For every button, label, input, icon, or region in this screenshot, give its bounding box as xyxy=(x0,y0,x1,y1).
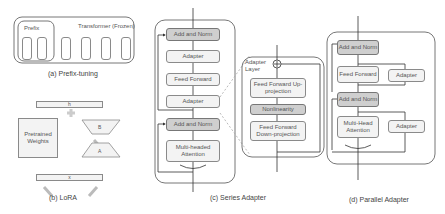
parallel-feed-forward: Feed Forward xyxy=(337,66,379,83)
lora-b-label: B xyxy=(98,124,101,130)
parallel-adapter-bottom: Adapter xyxy=(388,120,425,133)
parallel-multi-head-attention: Multi-Head Attention xyxy=(337,116,379,138)
series-add-norm-top: Add and Norm xyxy=(166,28,220,41)
lora-trapezoids xyxy=(0,0,445,214)
series-adapter-bottom: Adapter xyxy=(166,95,220,108)
series-feed-forward: Feed Forward xyxy=(166,73,220,86)
lora-x-bar: x xyxy=(36,174,103,181)
caption-parallel-adapter: (d) Parallel Adapter xyxy=(349,196,409,203)
series-adapter-top: Adapter xyxy=(166,50,220,63)
parallel-add-norm-bottom: Add and Norm xyxy=(337,92,379,107)
parallel-add-norm-top: Add and Norm xyxy=(337,40,379,55)
series-add-norm-bottom: Add and Norm xyxy=(166,118,220,131)
caption-lora: (b) LoRA xyxy=(49,194,77,201)
caption-series-adapter: (c) Series Adapter xyxy=(210,194,266,201)
adapter-nonlinearity: Nonlinearity xyxy=(250,104,306,115)
adapter-up-projection: Feed Forward Up-projection xyxy=(250,78,306,98)
lora-a-label: A xyxy=(98,148,101,154)
adapter-down-projection: Feed Forward Down-projection xyxy=(250,121,306,141)
adapter-layer-title: Adapter Layer xyxy=(245,59,273,73)
parallel-adapter-top: Adapter xyxy=(388,69,425,82)
series-multi-headed-attention: Multi-headed Attention xyxy=(166,140,220,162)
